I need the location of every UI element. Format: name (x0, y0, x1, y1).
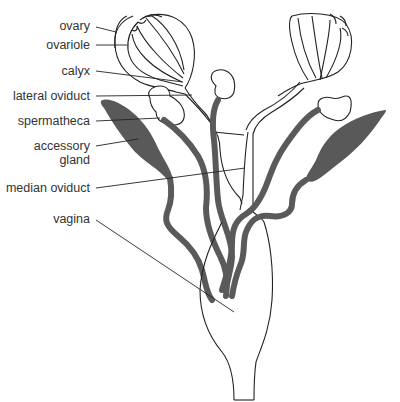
vagina-outline (200, 222, 273, 400)
label-accessory-gland-line2: gland (59, 153, 90, 167)
oviduct-outline (185, 82, 304, 222)
label-spermatheca: spermatheca (18, 114, 90, 128)
label-ovary: ovary (59, 19, 90, 33)
label-median-oviduct: median oviduct (6, 181, 91, 195)
label-vagina: vagina (53, 212, 90, 226)
label-ovariole: ovariole (46, 38, 90, 52)
label-lateral-oviduct: lateral oviduct (13, 89, 91, 103)
label-accessory-gland-line1: accessory (34, 139, 91, 153)
reproductive-system-diagram: ovary ovariole calyx lateral oviduct spe… (0, 0, 400, 402)
right-ovary (278, 14, 352, 96)
label-calyx: calyx (62, 64, 91, 78)
labels: ovary ovariole calyx lateral oviduct spe… (6, 19, 91, 226)
